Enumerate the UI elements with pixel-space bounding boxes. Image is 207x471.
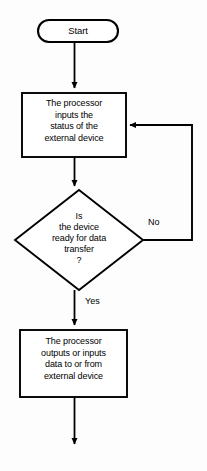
process-transfer-data-shape (20, 330, 127, 397)
flowchart-svg (0, 0, 207, 471)
process-input-status-shape (22, 93, 126, 157)
decision-ready-shape (15, 190, 143, 290)
edge-decision-no-path (130, 125, 192, 240)
start-terminator-shape (38, 20, 118, 42)
flowchart-canvas: Start The processorinputs thestatus of t… (0, 0, 207, 471)
